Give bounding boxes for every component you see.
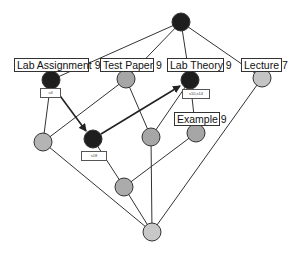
lattice-diagram bbox=[0, 0, 299, 259]
label-lab-theory-9: Lab Theory 9 bbox=[167, 58, 224, 72]
tag-mid-dark: s18 bbox=[81, 151, 107, 161]
edge bbox=[152, 78, 262, 232]
label-example-9: Example 9 bbox=[174, 112, 220, 126]
node-example-9[interactable] bbox=[187, 124, 205, 142]
node-lab-theory-9[interactable] bbox=[181, 71, 199, 89]
edge bbox=[151, 137, 152, 232]
node-test-paper-9[interactable] bbox=[117, 70, 135, 88]
node-mid-grey[interactable] bbox=[142, 128, 160, 146]
arrows bbox=[55, 86, 180, 134]
node-mid-dark[interactable] bbox=[84, 130, 102, 148]
node-top[interactable] bbox=[172, 13, 190, 31]
arrow-edge bbox=[101, 86, 180, 134]
edge bbox=[124, 133, 196, 187]
tag-lab-theory: s10,s14 bbox=[182, 89, 210, 99]
node-lab-assignment-9[interactable] bbox=[42, 71, 60, 89]
edges bbox=[43, 22, 262, 232]
tag-lab-assignment: s4 bbox=[40, 88, 61, 98]
label-lecture-7: Lecture 7 bbox=[241, 58, 282, 72]
node-lower-mid[interactable] bbox=[115, 178, 133, 196]
label-test-paper-9: Test Paper 9 bbox=[100, 58, 154, 72]
label-lab-assignment-9: Lab Assignment 9 bbox=[14, 58, 89, 72]
node-bottom[interactable] bbox=[143, 223, 161, 241]
node-left-grey[interactable] bbox=[34, 133, 52, 151]
